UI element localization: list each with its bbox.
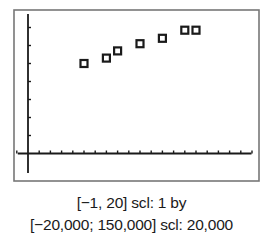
y-window-range: [−20,000; 150,000] scl: 20,000: [0, 214, 263, 236]
scatter-plot: [0, 0, 263, 190]
data-point-square-marker: [81, 60, 88, 67]
data-point-square-marker: [193, 27, 200, 34]
viewing-window-frame: [14, 10, 259, 181]
calculator-graph-screen: [0, 0, 263, 190]
data-point-square-marker: [137, 40, 144, 47]
x-window-range: [−1, 20] scl: 1 by: [0, 192, 263, 214]
data-point-square-marker: [114, 47, 121, 54]
data-point-square-marker: [181, 27, 188, 34]
data-point-square-marker: [159, 35, 166, 42]
window-settings-caption: [−1, 20] scl: 1 by [−20,000; 150,000] sc…: [0, 192, 263, 236]
data-point-square-marker: [103, 55, 110, 62]
